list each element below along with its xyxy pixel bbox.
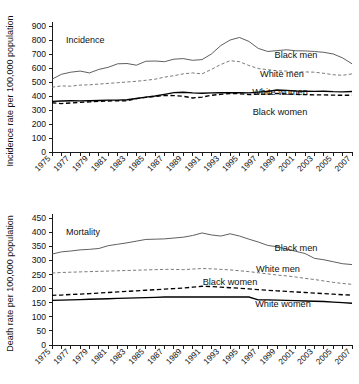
two-panel-line-chart: 0100200300400500600700800900197519771979… (0, 0, 359, 384)
x-axis-tick-label: 1983 (108, 154, 128, 174)
y-axis-tick-label: 700 (32, 49, 47, 59)
y-axis-tick-label: 300 (32, 255, 47, 265)
x-axis-tick-label: 1995 (221, 154, 241, 174)
panel-title: Mortality (66, 227, 101, 237)
x-axis-tick-label: 1989 (164, 347, 184, 367)
series-line-black-women (52, 286, 352, 295)
series-label-white-men: White men (260, 69, 304, 79)
y-axis-title: Death rate per 100,000 population (5, 215, 15, 352)
x-axis-tick-label: 2007 (333, 347, 353, 367)
x-axis-tick-label: 1999 (258, 154, 278, 174)
y-axis-tick-label: 350 (32, 241, 47, 251)
x-axis-tick-label: 1981 (89, 154, 109, 174)
series-label-black-women: Black women (253, 107, 308, 117)
x-axis-tick-label: 1975 (33, 347, 53, 367)
panel-incidence: 0100200300400500600700800900197519771979… (5, 15, 353, 173)
x-axis-tick-label: 1991 (183, 154, 203, 174)
x-axis-tick-label: 2005 (314, 347, 334, 367)
series-label-white-women: White women (255, 299, 311, 309)
x-axis-tick-label: 2003 (296, 154, 316, 174)
y-axis-tick-label: 400 (32, 91, 47, 101)
x-axis-tick-label: 1997 (239, 347, 259, 367)
x-axis-tick-label: 1983 (108, 347, 128, 367)
y-axis-tick-label: 500 (32, 77, 47, 87)
x-axis-tick-label: 1993 (202, 347, 222, 367)
x-axis-tick-label: 1979 (71, 154, 91, 174)
x-axis-tick-label: 2001 (277, 154, 297, 174)
x-axis-tick-label: 2001 (277, 347, 297, 367)
x-axis-tick-label: 2003 (296, 347, 316, 367)
x-axis-tick-label: 1989 (164, 154, 184, 174)
series-label-black-women: Black women (203, 277, 258, 287)
x-axis-tick-label: 1977 (52, 154, 72, 174)
y-axis-tick-label: 300 (32, 105, 47, 115)
x-axis-tick-label: 1981 (89, 347, 109, 367)
y-axis-tick-label: 450 (32, 213, 47, 223)
y-axis-tick-label: 150 (32, 298, 47, 308)
x-axis-tick-label: 1985 (127, 347, 147, 367)
panel-title: Incidence (66, 35, 105, 45)
series-label-white-men: White men (256, 264, 300, 274)
x-axis-tick-label: 1977 (52, 347, 72, 367)
x-axis-tick-label: 1993 (202, 154, 222, 174)
x-axis-tick-label: 1991 (183, 347, 203, 367)
x-axis-tick-label: 2005 (314, 154, 334, 174)
x-axis-tick-label: 1995 (221, 347, 241, 367)
x-axis-tick-label: 2007 (333, 154, 353, 174)
series-label-black-men: Black men (275, 243, 318, 253)
y-axis-tick-label: 100 (32, 312, 47, 322)
x-axis-tick-label: 1999 (258, 347, 278, 367)
y-axis-title: Incidence rate per 100,000 population (5, 15, 15, 166)
y-axis-tick-label: 900 (32, 21, 47, 31)
y-axis-tick-label: 250 (32, 270, 47, 280)
x-axis-tick-label: 1997 (239, 154, 259, 174)
series-line-white-men (52, 61, 352, 87)
x-axis-tick-label: 1975 (33, 154, 53, 174)
series-label-white-women: White women (252, 87, 308, 97)
x-axis-tick-label: 1987 (146, 154, 166, 174)
panel-mortality: 0501001502002503003504004501975197719791… (5, 213, 353, 366)
y-axis-tick-label: 600 (32, 63, 47, 73)
x-axis-tick-label: 1987 (146, 347, 166, 367)
series-label-black-men: Black men (275, 50, 318, 60)
y-axis-tick-label: 800 (32, 35, 47, 45)
x-axis-tick-label: 1985 (127, 154, 147, 174)
x-axis-tick-label: 1979 (71, 347, 91, 367)
y-axis-tick-label: 200 (32, 119, 47, 129)
y-axis-tick-label: 400 (32, 227, 47, 237)
y-axis-tick-label: 200 (32, 284, 47, 294)
y-axis-tick-label: 50 (36, 326, 46, 336)
y-axis-tick-label: 100 (32, 133, 47, 143)
figure-container: 0100200300400500600700800900197519771979… (0, 0, 359, 384)
